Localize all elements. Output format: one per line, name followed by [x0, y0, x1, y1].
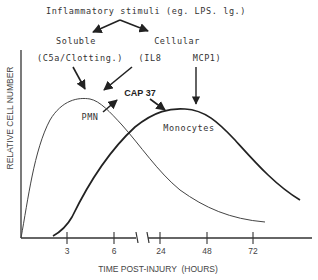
soluble-label: Soluble	[56, 36, 96, 46]
stimuli-title: Inflammatory stimuli (eg. LPS. lg.)	[46, 6, 246, 16]
pmn-curve	[21, 98, 265, 238]
monocytes-label: Monocytes	[163, 123, 214, 133]
mediator-arrows	[73, 67, 196, 104]
x-tick-3: 3	[65, 246, 70, 256]
x-tick-6: 6	[112, 246, 117, 256]
cap37-arrows	[103, 99, 165, 112]
soluble-mediators-label: (C5a/Clotting.)	[37, 53, 123, 63]
axes	[21, 50, 312, 244]
x-tick-72: 72	[248, 246, 258, 256]
il8-label: (IL8	[139, 53, 162, 63]
x-tick-48: 48	[202, 246, 212, 256]
x-axis-title: TIME POST-INJURY (HOURS)	[98, 264, 218, 274]
cap37-label: CAP 37	[124, 88, 155, 98]
inflammation-diagram: Inflammatory stimuli (eg. LPS. lg.) Solu…	[0, 0, 318, 280]
mcp1-label: MCP1)	[193, 53, 222, 63]
y-axis-title: RELATIVE CELL NUMBER	[5, 67, 15, 170]
branch-arrows	[93, 20, 148, 32]
cellular-label: Cellular	[154, 36, 200, 46]
pmn-label: PMN	[81, 112, 98, 122]
x-tick-24: 24	[156, 246, 166, 256]
